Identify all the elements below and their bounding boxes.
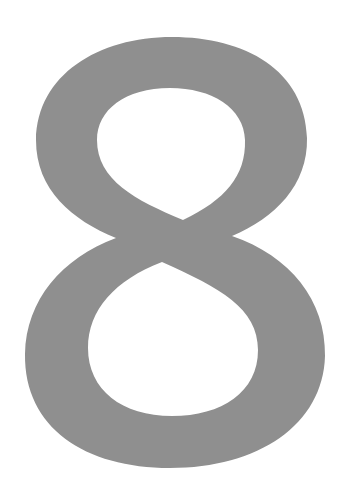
image-canvas: 8 <box>0 0 352 495</box>
eight-glyph-path <box>25 37 325 468</box>
digit-eight-shape <box>0 0 352 495</box>
